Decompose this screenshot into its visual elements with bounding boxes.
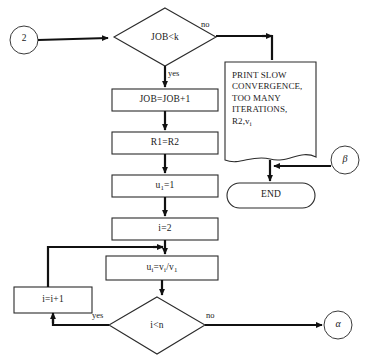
print-line-4: R2,vi	[232, 116, 302, 127]
process-u1-shape	[112, 175, 218, 197]
process-i-increment-shape	[14, 287, 92, 313]
process-job-increment-shape	[112, 89, 218, 111]
edge-entry-to-decision	[38, 38, 108, 40]
print-line-4-sub: i	[250, 119, 252, 126]
print-line-0: PRINT SLOW	[232, 70, 302, 81]
connector-alpha-label: α	[324, 318, 352, 329]
edge-job-no-to-print	[216, 36, 272, 60]
decision-i-lt-n-shape	[109, 297, 205, 354]
flowchart-graphics	[0, 0, 365, 363]
print-line-1: CONVERGENCE,	[232, 81, 302, 92]
flowchart-canvas: 2 JOB<k no yes JOB=JOB+1 R1=R2 u1=1 i=2 …	[0, 0, 365, 363]
print-line-4-main: R2,v	[232, 116, 250, 126]
edge-label-job-yes: yes	[168, 68, 179, 78]
edge-label-job-no: no	[201, 19, 210, 29]
process-i-init-shape	[112, 218, 218, 240]
decision-job-shape	[114, 8, 216, 66]
print-box-text: PRINT SLOW CONVERGENCE, TOO MANY ITERATI…	[232, 70, 302, 127]
edge-label-loop-no: no	[206, 310, 215, 320]
print-line-3: ITERATIONS,	[232, 104, 302, 115]
process-r1-shape	[112, 132, 218, 154]
process-ui-shape	[106, 256, 218, 280]
terminal-end-shape	[227, 183, 315, 208]
connector-beta-label: β	[331, 153, 359, 164]
print-line-2: TOO MANY	[232, 93, 302, 104]
edge-label-loop-yes: yes	[92, 310, 103, 320]
entry-connector-label: 2	[10, 33, 38, 44]
